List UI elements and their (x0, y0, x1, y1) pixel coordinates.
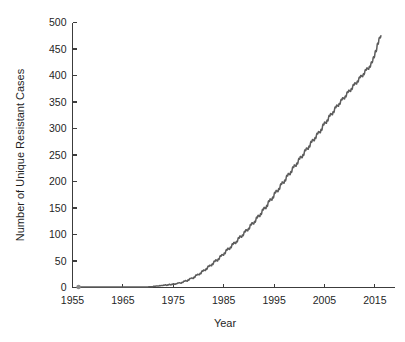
y-axis-tick-labels: 050100150200250300350400450500 (49, 16, 67, 293)
data-series-group (76, 36, 381, 289)
y-tick-label: 250 (49, 149, 67, 161)
series-line-unique-resistant-cases (79, 36, 381, 287)
y-tick-label: 50 (55, 255, 67, 267)
y-tick-label: 500 (49, 16, 67, 28)
y-tick-label: 150 (49, 202, 67, 214)
y-axis-tick-marks (73, 23, 77, 288)
y-tick-label: 0 (61, 281, 67, 293)
x-axis-tick-labels: 1955196519751985199520052015 (61, 294, 387, 306)
y-tick-label: 350 (49, 96, 67, 108)
data-point-marker (76, 285, 80, 289)
chart-figure: 050100150200250300350400450500 195519651… (0, 0, 405, 342)
y-tick-label: 400 (49, 69, 67, 81)
x-axis-title: Year (214, 317, 237, 329)
x-tick-label: 2005 (313, 294, 337, 306)
y-tick-label: 300 (49, 122, 67, 134)
x-tick-label: 1985 (212, 294, 236, 306)
y-axis-title: Number of Unique Resistant Cases (14, 68, 26, 241)
y-tick-label: 100 (49, 228, 67, 240)
x-tick-label: 1965 (111, 294, 135, 306)
y-tick-label: 200 (49, 175, 67, 187)
x-tick-label: 2015 (363, 294, 387, 306)
line-chart-canvas: 050100150200250300350400450500 195519651… (0, 0, 405, 342)
y-tick-label: 450 (49, 43, 67, 55)
x-tick-label: 1975 (162, 294, 186, 306)
x-tick-label: 1955 (61, 294, 85, 306)
x-tick-label: 1995 (262, 294, 286, 306)
